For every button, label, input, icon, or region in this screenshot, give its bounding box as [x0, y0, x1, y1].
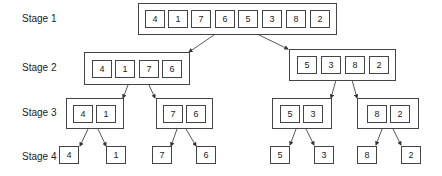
stage-4-cell: 3 [314, 146, 334, 164]
stage-1-array: 4 1 7 6 5 3 8 2 [138, 3, 337, 35]
stage-4-cell: 4 [59, 146, 79, 164]
array-cell: 3 [303, 105, 323, 123]
array-cell: 8 [367, 105, 387, 123]
array-cell: 4 [145, 10, 165, 28]
array-cell: 8 [345, 56, 365, 74]
array-cell: 5 [238, 10, 258, 28]
array-cell: 2 [390, 105, 410, 123]
stage-4-cell: 6 [196, 146, 216, 164]
stage-4-cell: 5 [270, 146, 290, 164]
array-cell: 1 [168, 10, 188, 28]
array-cell: 3 [321, 56, 341, 74]
stage-3-array-3: 5 3 [272, 98, 332, 129]
stage-2-left-array: 4 1 7 6 [84, 52, 190, 85]
array-cell: 3 [262, 10, 282, 28]
array-cell: 5 [297, 56, 317, 74]
stage-2-right-array: 5 3 8 2 [289, 49, 396, 81]
stage-3-array-2: 7 6 [156, 98, 213, 129]
array-cell: 8 [286, 10, 306, 28]
stage-3-array-1: 4 1 [66, 98, 124, 129]
array-cell: 1 [115, 60, 135, 78]
array-cell: 4 [92, 60, 112, 78]
array-cell: 2 [310, 10, 330, 28]
stage-4-cell: 7 [152, 146, 172, 164]
array-cell: 7 [163, 105, 183, 123]
array-cell: 1 [96, 105, 116, 123]
array-cell: 6 [162, 60, 182, 78]
array-cell: 7 [191, 10, 211, 28]
stage-4-cell: 2 [401, 146, 421, 164]
array-cell: 7 [139, 60, 159, 78]
stage-4-cell: 8 [357, 146, 377, 164]
array-cell: 6 [186, 105, 206, 123]
array-cell: 4 [73, 105, 93, 123]
stage-4-cell: 1 [106, 146, 126, 164]
array-cell: 5 [280, 105, 300, 123]
array-cell: 6 [215, 10, 235, 28]
array-cell: 2 [369, 56, 389, 74]
stage-3-array-4: 8 2 [357, 98, 419, 129]
